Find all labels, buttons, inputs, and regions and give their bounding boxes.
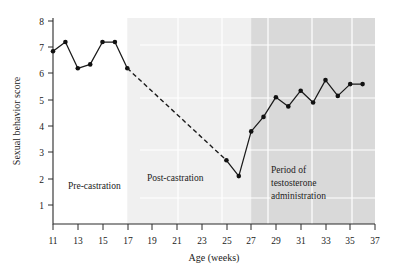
x-tick-label: 13 <box>73 236 83 246</box>
y-tick-label: 6 <box>39 69 44 79</box>
x-tick-label: 37 <box>370 236 380 246</box>
x-tick-label: 29 <box>271 236 281 246</box>
y-tick-label: 4 <box>39 122 44 132</box>
x-tick-label: 23 <box>197 236 207 246</box>
y-axis-title: Sexual behavior score <box>11 76 22 165</box>
y-tick-label: 8 <box>39 17 44 27</box>
data-point <box>63 40 68 45</box>
x-tick-label: 35 <box>345 236 355 246</box>
chart-svg: 8 7 6 5 4 3 2 1 11 <box>0 0 393 266</box>
region-label-post-castration: Post-castration <box>147 173 204 183</box>
x-tick-label: 21 <box>172 236 182 246</box>
data-point <box>323 78 328 83</box>
data-point <box>311 100 316 105</box>
data-point <box>261 115 266 120</box>
region-band-post-castration <box>127 18 251 224</box>
y-tick-label: 2 <box>39 175 44 185</box>
data-point <box>360 82 365 87</box>
chart-figure: 8 7 6 5 4 3 2 1 11 <box>0 0 393 266</box>
data-point <box>224 158 229 163</box>
data-point <box>249 129 254 134</box>
y-tick-label: 7 <box>39 43 44 53</box>
data-point <box>51 49 56 54</box>
data-point <box>348 82 353 87</box>
data-point <box>336 94 341 99</box>
data-point <box>100 40 105 45</box>
data-point <box>286 104 291 109</box>
x-axis-tick-labels: 11 13 15 17 19 21 23 25 27 29 31 33 35 3… <box>48 236 380 246</box>
region-label-testosterone-line1: Period of <box>271 165 307 175</box>
y-tick-label: 5 <box>39 96 44 106</box>
x-tick-label: 25 <box>222 236 232 246</box>
y-tick-label: 1 <box>39 201 44 211</box>
x-tick-label: 27 <box>246 236 256 246</box>
y-axis-ticks <box>48 21 53 205</box>
y-tick-label: 3 <box>39 148 44 158</box>
data-point <box>274 95 279 100</box>
region-label-testosterone-line3: administration <box>271 191 326 201</box>
region-label-pre-castration: Pre-castration <box>68 181 121 191</box>
data-point <box>237 174 242 179</box>
data-point <box>113 40 118 45</box>
x-tick-label: 15 <box>98 236 108 246</box>
region-label-testosterone-line2: testosterone <box>271 178 316 188</box>
data-point <box>298 88 303 93</box>
x-tick-label: 31 <box>296 236 306 246</box>
x-tick-label: 19 <box>147 236 157 246</box>
data-point <box>76 66 81 71</box>
data-point <box>88 62 93 67</box>
x-axis-title: Age (weeks) <box>189 252 240 264</box>
x-tick-label: 17 <box>123 236 133 246</box>
x-tick-label: 11 <box>48 236 57 246</box>
y-axis-tick-labels: 8 7 6 5 4 3 2 1 <box>39 17 44 211</box>
x-tick-label: 33 <box>321 236 331 246</box>
x-axis-ticks <box>53 224 375 230</box>
